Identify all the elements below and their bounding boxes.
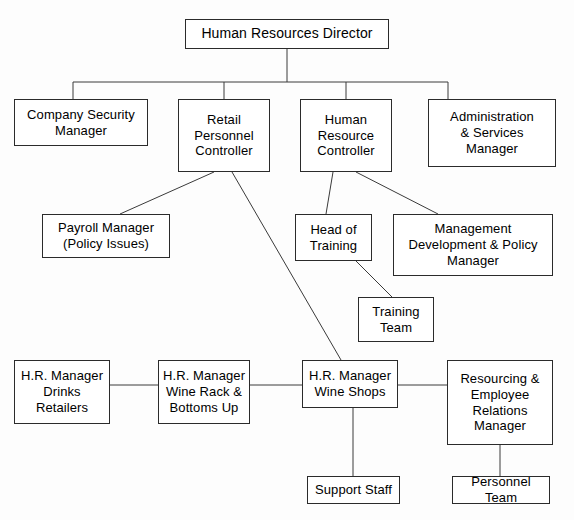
node-label-support-staff: Support Staff [315, 482, 392, 498]
node-hrm-wine-rack[interactable]: H.R. Manager Wine Rack & Bottoms Up [158, 360, 250, 424]
node-support-staff[interactable]: Support Staff [307, 476, 400, 504]
node-label-hr-director: Human Resources Director [201, 25, 372, 42]
node-label-mgmt-development: Management Development & Policy Manager [408, 221, 537, 269]
node-payroll-manager[interactable]: Payroll Manager (Policy Issues) [42, 214, 170, 258]
node-label-head-of-training: Head of Training [310, 222, 357, 254]
node-label-hrm-wine-rack: H.R. Manager Wine Rack & Bottoms Up [163, 368, 245, 416]
node-label-company-security: Company Security Manager [27, 107, 135, 139]
node-label-retail-personnel: Retail Personnel Controller [194, 112, 253, 160]
connector-edge-retail-wineshops [232, 172, 341, 360]
node-training-team[interactable]: Training Team [358, 297, 434, 342]
org-chart: Human Resources DirectorCompany Security… [0, 0, 574, 520]
node-label-admin-services: Administration & Services Manager [450, 109, 534, 157]
node-label-resourcing-employee: Resourcing & Employee Relations Manager [460, 371, 539, 434]
node-label-human-resource-ctrl: Human Resource Controller [317, 112, 374, 160]
node-label-hrm-wine-shops: H.R. Manager Wine Shops [309, 368, 391, 400]
connector-edge-retail-payroll [120, 172, 214, 214]
node-company-security[interactable]: Company Security Manager [14, 99, 148, 146]
node-resourcing-employee[interactable]: Resourcing & Employee Relations Manager [447, 360, 553, 445]
node-label-payroll-manager: Payroll Manager (Policy Issues) [58, 220, 154, 252]
connector-edge-hrc-mgmtdev [356, 172, 438, 214]
node-label-personnel-team: Personnel Team [456, 474, 546, 506]
node-label-training-team: Training Team [372, 304, 419, 336]
node-label-hrm-drinks: H.R. Manager Drinks Retailers [21, 368, 103, 416]
node-hr-director[interactable]: Human Resources Director [185, 19, 389, 49]
connector-edge-training-team [356, 261, 392, 297]
connector-edge-hrc-training [326, 172, 333, 214]
node-head-of-training[interactable]: Head of Training [295, 214, 372, 261]
node-mgmt-development[interactable]: Management Development & Policy Manager [393, 214, 553, 276]
node-hrm-drinks[interactable]: H.R. Manager Drinks Retailers [14, 360, 110, 424]
node-retail-personnel[interactable]: Retail Personnel Controller [178, 99, 270, 172]
node-admin-services[interactable]: Administration & Services Manager [428, 99, 556, 167]
node-hrm-wine-shops[interactable]: H.R. Manager Wine Shops [302, 360, 398, 408]
node-human-resource-ctrl[interactable]: Human Resource Controller [300, 99, 392, 172]
node-personnel-team[interactable]: Personnel Team [452, 476, 550, 504]
